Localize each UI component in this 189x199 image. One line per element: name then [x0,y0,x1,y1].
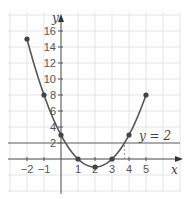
data-point [109,156,114,161]
y-tick-label: 12 [44,57,56,69]
y-tick-label: 14 [44,41,56,53]
x-tick-label: 5 [143,163,149,175]
x-tick-label: −1 [38,163,51,175]
data-point [75,156,80,161]
data-point [58,132,63,137]
data-point [143,92,148,97]
y-tick-label: 8 [50,89,56,101]
data-point [24,36,29,41]
data-point [41,92,46,97]
x-tick-label: 1 [75,163,81,175]
x-tick-label: −2 [21,163,34,175]
x-axis-label: x [171,163,178,177]
data-point [92,164,97,169]
x-tick-label: 4 [126,163,132,175]
y-tick-label: 10 [44,73,56,85]
y-tick-label: 16 [44,25,56,37]
y-axis-label: y [51,11,59,25]
reference-line-label: y = 2 [138,129,171,143]
x-tick-label: 3 [109,163,115,175]
x-axis-arrow-icon [175,156,183,162]
quadratic-chart: −2−112345246810121416yxy = 2 [0,0,189,199]
data-point [126,132,131,137]
